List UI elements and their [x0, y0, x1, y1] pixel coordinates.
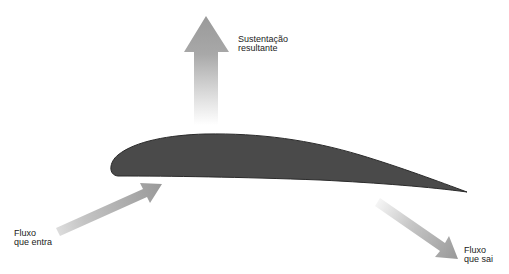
airfoil [111, 134, 467, 192]
lift-label: Sustentação resultante [238, 35, 288, 53]
outflow-label: Fluxo que sai [464, 246, 493, 264]
inflow-label: Fluxo que entra [14, 229, 52, 247]
inflow-arrow [56, 183, 162, 236]
outflow-arrow [375, 198, 458, 259]
lift-arrow [184, 16, 229, 125]
